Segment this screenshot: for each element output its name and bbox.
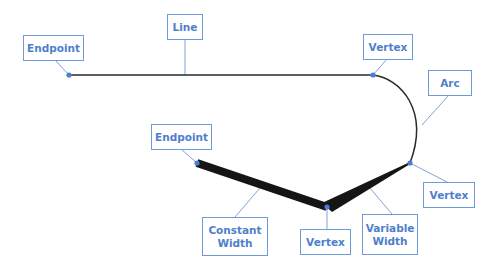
leader-endpoint-top [55,60,69,75]
label-line: Line [167,14,203,40]
label-variable-width: Variable Width [362,214,418,255]
vertex-top-dot [370,72,375,77]
polyline-diagram: Endpoint Line Vertex Arc Vertex Endpoint… [0,0,496,267]
leader-variable-width [369,187,392,214]
label-endpoint-lower: Endpoint [151,124,212,150]
variable-width-segment [322,162,411,212]
arc-segment [373,75,417,163]
label-vertex-bottom: Vertex [300,229,351,255]
constant-width-segment [197,163,327,207]
leader-vertex-top [373,59,387,75]
label-vertex-top: Vertex [363,34,413,60]
label-endpoint-top: Endpoint [23,35,84,61]
vertex-bottom-dot [324,204,329,209]
leader-constant-width [235,188,260,217]
vertex-right-dot [407,160,412,165]
label-vertex-right: Vertex [423,182,475,208]
endpoint-top-dot [66,72,71,77]
label-constant-width: Constant Width [202,217,268,256]
leader-lines [55,39,449,229]
endpoint-lower-dot [194,160,199,165]
leader-vertex-right [410,163,449,183]
leader-endpoint-lower [181,149,197,163]
label-arc: Arc [428,70,472,96]
leader-arc [422,95,449,125]
